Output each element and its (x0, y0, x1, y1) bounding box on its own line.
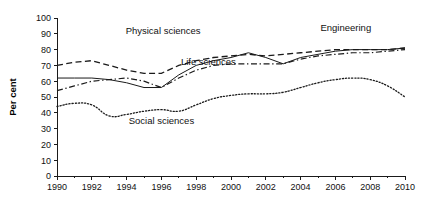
x-tick-label: 2010 (395, 182, 415, 192)
x-tick-label: 2008 (360, 182, 380, 192)
x-tick-label: 1992 (82, 182, 102, 192)
y-tick-label: 90 (41, 29, 51, 39)
series-line-social-sciences (57, 78, 405, 117)
x-tick-label: 2004 (291, 182, 311, 192)
y-tick-label: 20 (41, 140, 51, 150)
x-tick-label: 1990 (47, 182, 67, 192)
x-tick-label: 2002 (256, 182, 276, 192)
series-label-physical-sciences: Physical sciences (126, 25, 201, 36)
y-tick-label: 30 (41, 124, 51, 134)
y-tick-label: 80 (41, 45, 51, 55)
y-tick-label: 50 (41, 92, 51, 102)
x-axis-ticks: 1990199219941996199820002002200420062008… (47, 176, 415, 192)
x-tick-label: 1998 (186, 182, 206, 192)
y-tick-label: 100 (36, 13, 51, 23)
y-axis-ticks: 0102030405060708090100 (36, 13, 57, 181)
axes-group (57, 18, 405, 177)
x-tick-label: 2000 (221, 182, 241, 192)
x-tick-label: 1996 (151, 182, 171, 192)
chart-container: 0102030405060708090100 19901992199419961… (0, 0, 423, 202)
y-tick-label: 0 (46, 171, 51, 181)
y-tick-label: 40 (41, 108, 51, 118)
y-tick-label: 10 (41, 156, 51, 166)
series-line-engineering (57, 48, 405, 87)
series-label-social-sciences: Social sciences (129, 115, 195, 126)
line-chart: 0102030405060708090100 19901992199419961… (0, 0, 423, 202)
x-tick-label: 2006 (325, 182, 345, 192)
x-tick-label: 1994 (117, 182, 137, 192)
y-axis-title: Per cent (7, 77, 18, 115)
y-tick-label: 70 (41, 61, 51, 71)
y-tick-label: 60 (41, 77, 51, 87)
series-label-engineering: Engineering (320, 22, 371, 33)
series-label-life-sciences: Life sciences (181, 56, 236, 67)
